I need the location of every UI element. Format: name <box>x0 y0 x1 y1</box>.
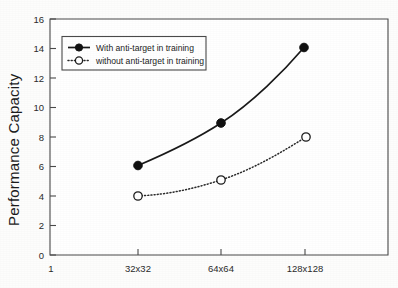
y-tick-label-8: 8 <box>39 132 44 143</box>
x-tick-label-128x128: 128x128 <box>287 263 323 274</box>
data-point-filled-64x64 <box>217 119 226 128</box>
data-point-open-128x128 <box>302 133 310 141</box>
y-tick-label-2: 2 <box>39 220 44 231</box>
data-point-filled-128x128 <box>300 43 309 52</box>
data-point-open-64x64 <box>217 176 225 184</box>
x-tick-label-64x64: 64x64 <box>208 263 234 274</box>
legend-label-without-anti-target: without anti-target in training <box>95 56 204 66</box>
y-tick-label-6: 6 <box>39 161 44 172</box>
x-tick-label-1: 1 <box>48 263 53 274</box>
y-tick-label-16: 16 <box>33 14 44 25</box>
legend-label-with-anti-target: With anti-target in training <box>96 43 194 53</box>
legend-marker-open-circle-icon <box>75 57 82 64</box>
y-tick-label-4: 4 <box>39 191 44 202</box>
y-axis-title: Performance Capacity <box>5 73 22 226</box>
chart-legend: With anti-target in training without ant… <box>62 37 206 71</box>
x-tick-label-32x32: 32x32 <box>125 263 151 274</box>
y-tick-label-10: 10 <box>33 102 44 113</box>
legend-marker-filled-circle-icon <box>75 44 82 51</box>
chart-figure: 0 2 4 6 8 10 12 14 16 1 32x32 64x64 128x… <box>0 0 398 288</box>
data-point-filled-32x32 <box>134 161 143 170</box>
data-point-open-32x32 <box>134 192 142 200</box>
y-tick-label-14: 14 <box>33 43 44 54</box>
y-tick-label-12: 12 <box>33 73 44 84</box>
y-tick-label-0: 0 <box>39 250 44 261</box>
